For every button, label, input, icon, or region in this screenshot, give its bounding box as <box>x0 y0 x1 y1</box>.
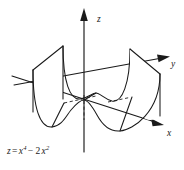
surface-plot-svg: z y x <box>0 0 184 170</box>
z-axis-arrowhead <box>80 8 88 21</box>
figure-container: z y x z=x4−2x2 <box>0 0 184 170</box>
equation-equals: = <box>11 146 19 156</box>
surface-group <box>33 46 160 131</box>
z-axis-label: z <box>96 14 101 24</box>
y-axis-arrowhead <box>157 55 170 63</box>
equation-term2-coefficient: 2 <box>34 146 41 156</box>
surface-left-wall-fill <box>33 46 63 115</box>
equation-caption: z=x4−2x2 <box>7 146 50 156</box>
equation-term2-exponent: 2 <box>46 144 50 151</box>
y-axis-label: y <box>170 59 176 69</box>
z-axis <box>80 8 88 152</box>
x-axis-label: x <box>166 128 172 138</box>
